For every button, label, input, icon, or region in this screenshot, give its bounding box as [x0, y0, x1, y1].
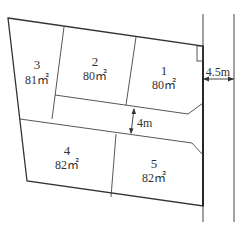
lot-5-area: 82㎡ — [142, 171, 166, 185]
lot-5-number: 5 — [151, 156, 158, 171]
lot-3-area: 81㎡ — [25, 73, 49, 87]
lot-4-area: 82㎡ — [55, 158, 79, 172]
arrowhead-down-icon — [129, 128, 134, 134]
divider-lot4-lot5 — [111, 134, 116, 197]
lot-1-number: 1 — [161, 63, 168, 78]
private-road-width-label: 4m — [137, 116, 153, 130]
arrowhead-up-icon — [132, 108, 137, 114]
public-road-width-label: 4.5m — [206, 65, 231, 79]
lot-2-number: 2 — [92, 54, 99, 69]
private-road-lower-edge — [20, 119, 203, 155]
lot-2-area: 80㎡ — [83, 69, 107, 83]
private-road-upper-edge — [55, 95, 203, 114]
divider-lot3-lot2 — [52, 27, 64, 119]
divider-lot2-lot1 — [126, 37, 136, 105]
subdivision-plan: 3 81㎡ 2 80㎡ 1 80㎡ 4 82㎡ 5 82㎡ 4m 4.5m — [0, 0, 243, 228]
lot-4-number: 4 — [64, 143, 71, 158]
lot-1-area: 80㎡ — [152, 78, 176, 92]
lot-3-number: 3 — [34, 57, 41, 72]
